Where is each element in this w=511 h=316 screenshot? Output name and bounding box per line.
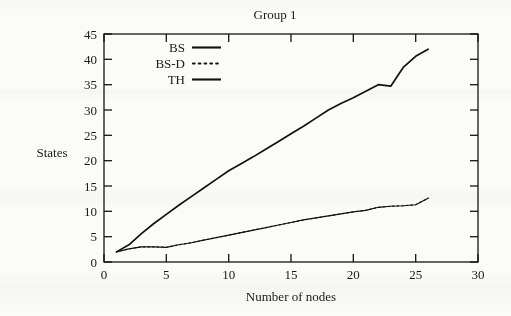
x-tick-label: 30 bbox=[472, 267, 485, 282]
x-axis-tick-labels: 0 5 10 15 20 25 30 bbox=[101, 267, 485, 282]
legend-label-bs: BS bbox=[169, 40, 185, 55]
chart-figure: Group 1 States Number of nodes bbox=[0, 0, 511, 316]
x-tick-label: 5 bbox=[163, 267, 170, 282]
x-axis-label: Number of nodes bbox=[246, 289, 336, 304]
x-tick-label: 25 bbox=[409, 267, 422, 282]
data-series-group bbox=[116, 49, 428, 252]
y-tick-label: 25 bbox=[84, 128, 97, 143]
y-tick-label: 30 bbox=[84, 103, 97, 118]
y-tick-label: 45 bbox=[84, 27, 97, 42]
x-tick-label: 10 bbox=[222, 267, 235, 282]
series-path-BS-D bbox=[116, 198, 428, 252]
chart-canvas: Group 1 States Number of nodes bbox=[0, 0, 511, 316]
y-axis-label: States bbox=[36, 145, 67, 160]
legend-label-bsd: BS-D bbox=[155, 56, 185, 71]
chart-title: Group 1 bbox=[254, 7, 297, 22]
x-tick-label: 20 bbox=[347, 267, 360, 282]
series-path-BS bbox=[116, 198, 428, 252]
chart-legend: BS BS-D TH bbox=[155, 40, 221, 87]
y-tick-label: 0 bbox=[91, 255, 98, 270]
x-tick-label: 15 bbox=[285, 267, 298, 282]
y-tick-label: 10 bbox=[84, 204, 97, 219]
y-tick-label: 35 bbox=[84, 77, 97, 92]
x-tick-label: 0 bbox=[101, 267, 108, 282]
y-tick-label: 40 bbox=[84, 52, 97, 67]
series-path-TH bbox=[116, 49, 428, 252]
y-tick-label: 15 bbox=[84, 179, 97, 194]
y-tick-label: 5 bbox=[91, 229, 98, 244]
y-tick-label: 20 bbox=[84, 153, 97, 168]
legend-label-th: TH bbox=[168, 72, 185, 87]
y-axis-tick-labels: 0 5 10 15 20 25 30 35 40 45 bbox=[84, 27, 97, 270]
